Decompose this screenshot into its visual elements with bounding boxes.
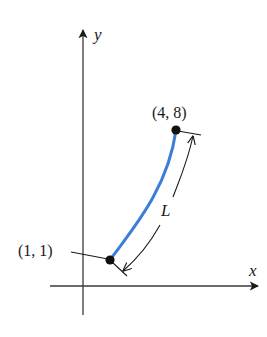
point-start-dot [105,255,114,264]
curve [110,130,176,260]
dimension-arc-upper [173,136,193,197]
arc-length-label: L [161,202,170,219]
arc-length-diagram: y x (4, 8) (1, 1) L [0,0,267,337]
point-end-label: (4, 8) [152,105,187,121]
point-label-leader [71,252,108,259]
point-start-label: (1, 1) [18,243,53,259]
plot-canvas [0,0,267,337]
x-axis-label: x [249,262,257,279]
y-axis-label: y [94,26,102,43]
point-end-dot [171,125,180,134]
dimension-tick-top [178,131,201,135]
dimension-arc-lower [123,225,160,271]
